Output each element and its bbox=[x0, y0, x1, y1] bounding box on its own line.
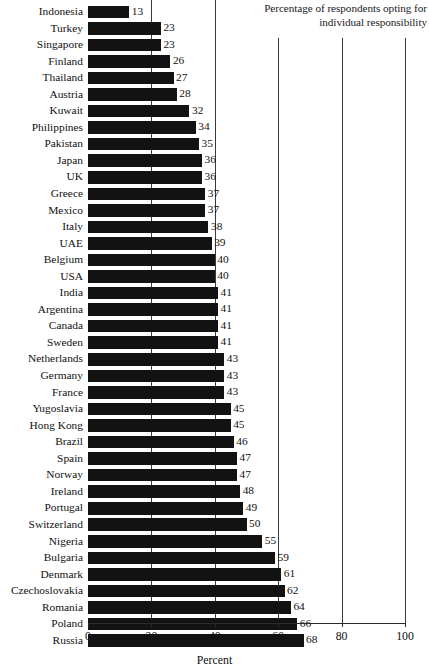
bar bbox=[88, 386, 224, 399]
bar-row: Nigeria55 bbox=[0, 534, 429, 551]
bar-value-label: 46 bbox=[236, 434, 247, 449]
x-tick-label: 20 bbox=[131, 629, 171, 643]
bar-row: Austria28 bbox=[0, 87, 429, 104]
bar-row: UK36 bbox=[0, 169, 429, 186]
x-tick-0 bbox=[88, 623, 89, 627]
category-label: Netherlands bbox=[0, 351, 83, 366]
bar-row: Canada41 bbox=[0, 318, 429, 335]
bar bbox=[88, 221, 208, 234]
bar-value-label: 62 bbox=[287, 583, 298, 598]
category-label: Finland bbox=[0, 54, 83, 69]
bar-row: Yugoslavia45 bbox=[0, 401, 429, 418]
bar-value-label: 43 bbox=[227, 351, 238, 366]
x-axis-line bbox=[88, 623, 405, 624]
category-label: France bbox=[0, 385, 83, 400]
bar-row: France43 bbox=[0, 385, 429, 402]
category-label: Germany bbox=[0, 368, 83, 383]
bar-row: Germany43 bbox=[0, 368, 429, 385]
bar bbox=[88, 254, 215, 267]
bar bbox=[88, 121, 196, 134]
bar-value-label: 40 bbox=[217, 268, 228, 283]
bar-value-label: 41 bbox=[220, 285, 231, 300]
bar-row: Singapore23 bbox=[0, 37, 429, 54]
bar bbox=[88, 452, 237, 465]
bar-row: Indonesia13 bbox=[0, 4, 429, 21]
bar-row: Portugal49 bbox=[0, 500, 429, 517]
category-label: Thailand bbox=[0, 70, 83, 85]
bar-rows: Indonesia13Turkey23Singapore23Finland26T… bbox=[0, 4, 429, 649]
category-label: Yugoslavia bbox=[0, 401, 83, 416]
bar-row: Sweden41 bbox=[0, 335, 429, 352]
bar-row: Pakistan35 bbox=[0, 136, 429, 153]
bar-value-label: 27 bbox=[176, 70, 187, 85]
bar-value-label: 45 bbox=[233, 417, 244, 432]
bar-row: Netherlands43 bbox=[0, 351, 429, 368]
category-label: India bbox=[0, 285, 83, 300]
bar-row: Belgium40 bbox=[0, 252, 429, 269]
bar-value-label: 32 bbox=[192, 103, 203, 118]
bar bbox=[88, 485, 240, 498]
bar-value-label: 43 bbox=[227, 384, 238, 399]
bar bbox=[88, 204, 205, 217]
category-label: Singapore bbox=[0, 37, 83, 52]
bar-row: Mexico37 bbox=[0, 203, 429, 220]
bar-row: Kuwait32 bbox=[0, 103, 429, 120]
bar bbox=[88, 270, 215, 283]
bar-row: Turkey23 bbox=[0, 21, 429, 38]
bar-value-label: 34 bbox=[198, 119, 209, 134]
bar-value-label: 47 bbox=[239, 450, 250, 465]
bar-row: USA40 bbox=[0, 269, 429, 286]
bar-row: Finland26 bbox=[0, 54, 429, 71]
bar-value-label: 50 bbox=[249, 516, 260, 531]
category-label: Indonesia bbox=[0, 4, 83, 19]
bar bbox=[88, 154, 202, 167]
x-tick-label: 60 bbox=[258, 629, 298, 643]
bar-row: Thailand27 bbox=[0, 70, 429, 87]
bar-value-label: 41 bbox=[220, 334, 231, 349]
category-label: Belgium bbox=[0, 252, 83, 267]
bar-value-label: 28 bbox=[179, 86, 190, 101]
bar-row: Philippines34 bbox=[0, 120, 429, 137]
category-label: Romania bbox=[0, 600, 83, 615]
category-label: Denmark bbox=[0, 567, 83, 582]
category-label: Philippines bbox=[0, 120, 83, 135]
bar-value-label: 39 bbox=[214, 235, 225, 250]
x-tick-80 bbox=[342, 623, 343, 627]
x-tick-40 bbox=[215, 623, 216, 627]
category-label: USA bbox=[0, 269, 83, 284]
bar bbox=[88, 39, 161, 52]
bar bbox=[88, 353, 224, 366]
bar-row: Italy38 bbox=[0, 219, 429, 236]
bar bbox=[88, 320, 218, 333]
category-label: Spain bbox=[0, 451, 83, 466]
bar-row: Bulgaria59 bbox=[0, 550, 429, 567]
x-tick-label: 80 bbox=[322, 629, 362, 643]
bar-value-label: 38 bbox=[211, 219, 222, 234]
bar bbox=[88, 568, 281, 581]
bar bbox=[88, 6, 129, 19]
bar bbox=[88, 469, 237, 482]
category-label: Pakistan bbox=[0, 136, 83, 151]
bar-row: Czechoslovakia62 bbox=[0, 583, 429, 600]
bar-value-label: 48 bbox=[243, 483, 254, 498]
bar-value-label: 45 bbox=[233, 401, 244, 416]
bar bbox=[88, 188, 205, 201]
category-label: Hong Kong bbox=[0, 418, 83, 433]
bar-row: Brazil46 bbox=[0, 434, 429, 451]
category-label: UK bbox=[0, 169, 83, 184]
bar-value-label: 37 bbox=[208, 186, 219, 201]
bar bbox=[88, 22, 161, 35]
bar bbox=[88, 403, 231, 416]
bar-value-label: 43 bbox=[227, 368, 238, 383]
x-tick-label: 100 bbox=[385, 629, 425, 643]
category-label: Czechoslovakia bbox=[0, 583, 83, 598]
bar bbox=[88, 502, 243, 515]
bar-value-label: 23 bbox=[163, 37, 174, 52]
bar bbox=[88, 237, 212, 250]
bar-row: Argentina41 bbox=[0, 302, 429, 319]
x-tick-20 bbox=[151, 623, 152, 627]
bar bbox=[88, 171, 202, 184]
bar-row: Denmark61 bbox=[0, 567, 429, 584]
x-tick-100 bbox=[405, 623, 406, 627]
bar-value-label: 35 bbox=[201, 136, 212, 151]
